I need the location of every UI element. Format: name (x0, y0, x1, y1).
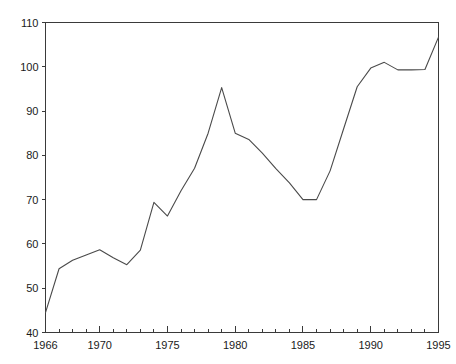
x-tick-label: 1980 (223, 339, 247, 351)
x-tick-label: 1995 (426, 339, 450, 351)
y-tick-label: 40 (26, 327, 38, 339)
x-tick-label: 1990 (358, 339, 382, 351)
x-tick-label: 1985 (291, 339, 315, 351)
y-tick-label: 110 (21, 17, 39, 29)
y-tick-label: 60 (26, 238, 38, 250)
y-tick-label: 50 (26, 282, 38, 294)
chart-canvas: 405060708090100110 196619701975198019851… (0, 0, 456, 364)
chart-background (0, 0, 456, 364)
y-tick-label: 80 (26, 149, 38, 161)
y-tick-label: 70 (26, 194, 38, 206)
x-tick-label: 1975 (155, 339, 179, 351)
line-chart: 405060708090100110 196619701975198019851… (0, 0, 456, 364)
y-tick-label: 100 (20, 61, 38, 73)
x-tick-label: 1966 (33, 339, 57, 351)
x-tick-label: 1970 (87, 339, 111, 351)
y-tick-label: 90 (26, 105, 38, 117)
